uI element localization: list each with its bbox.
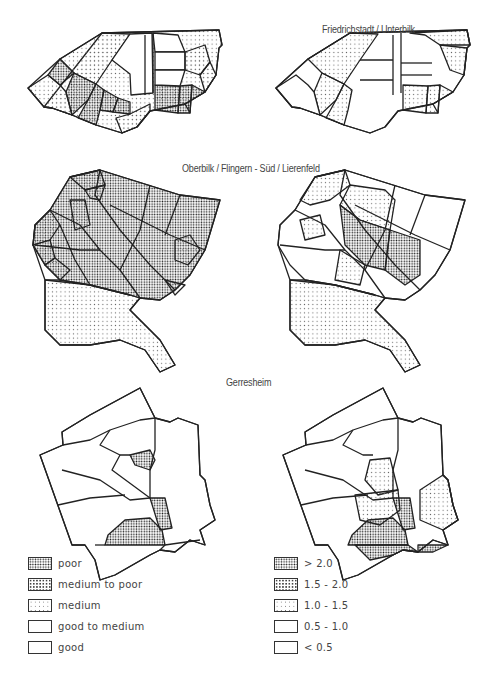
map-gerresheim-right	[283, 388, 458, 580]
legend-item: poor	[28, 553, 145, 574]
legend-label: 1.5 - 2.0	[304, 579, 348, 590]
map-oberbilk-left	[33, 170, 220, 372]
legend-item: < 0.5	[274, 637, 348, 658]
region-title-gerresheim: Gerresheim	[226, 377, 271, 388]
legend-item: 1.0 - 1.5	[274, 595, 348, 616]
legend-label: 0.5 - 1.0	[304, 621, 348, 632]
legend-label: poor	[58, 558, 82, 569]
map-friedrichstadt-right	[276, 30, 470, 133]
legend-item: 0.5 - 1.0	[274, 616, 348, 637]
legend-item: > 2.0	[274, 553, 348, 574]
legend-label: good	[58, 642, 84, 653]
legend-label: medium to poor	[58, 579, 142, 590]
pattern-none-swatch	[274, 641, 298, 654]
legend-item: medium to poor	[28, 574, 145, 595]
pattern-mid-swatch	[274, 578, 298, 591]
legend-label: good to medium	[58, 621, 145, 632]
legend-label: medium	[58, 600, 101, 611]
legend-item: good to medium	[28, 616, 145, 637]
legend-quality: poor medium to poor medium good to mediu…	[28, 553, 145, 658]
pattern-light-swatch	[28, 599, 52, 612]
map-friedrichstadt-left	[28, 30, 222, 133]
legend-item: 1.5 - 2.0	[274, 574, 348, 595]
legend-label: < 0.5	[304, 642, 333, 653]
pattern-none-swatch	[274, 620, 298, 633]
region-title-friedrichstadt: Friedrichstadt / Unterbilk	[322, 24, 415, 35]
pattern-dense-swatch	[28, 557, 52, 570]
legend-label: 1.0 - 1.5	[304, 600, 348, 611]
legend-ratio: > 2.0 1.5 - 2.0 1.0 - 1.5 0.5 - 1.0 < 0.…	[274, 553, 348, 658]
pattern-light-swatch	[274, 599, 298, 612]
pattern-none-swatch	[28, 641, 52, 654]
legend-item: good	[28, 637, 145, 658]
pattern-none-swatch	[28, 620, 52, 633]
map-oberbilk-right	[278, 170, 465, 372]
legend-item: medium	[28, 595, 145, 616]
map-gerresheim-left	[40, 388, 215, 580]
pattern-dense-swatch	[274, 557, 298, 570]
pattern-mid-swatch	[28, 578, 52, 591]
region-title-oberbilk: Oberbilk / Flingern - Süd / Lierenfeld	[182, 163, 320, 174]
legend-label: > 2.0	[304, 558, 333, 569]
